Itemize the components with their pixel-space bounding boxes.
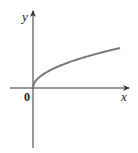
sqrt-curve [33, 48, 120, 88]
origin-label: 0 [24, 90, 30, 104]
sqrt-graph: y 0 x [0, 0, 138, 153]
x-axis-label: x [120, 89, 127, 104]
y-axis-label: y [20, 9, 28, 24]
